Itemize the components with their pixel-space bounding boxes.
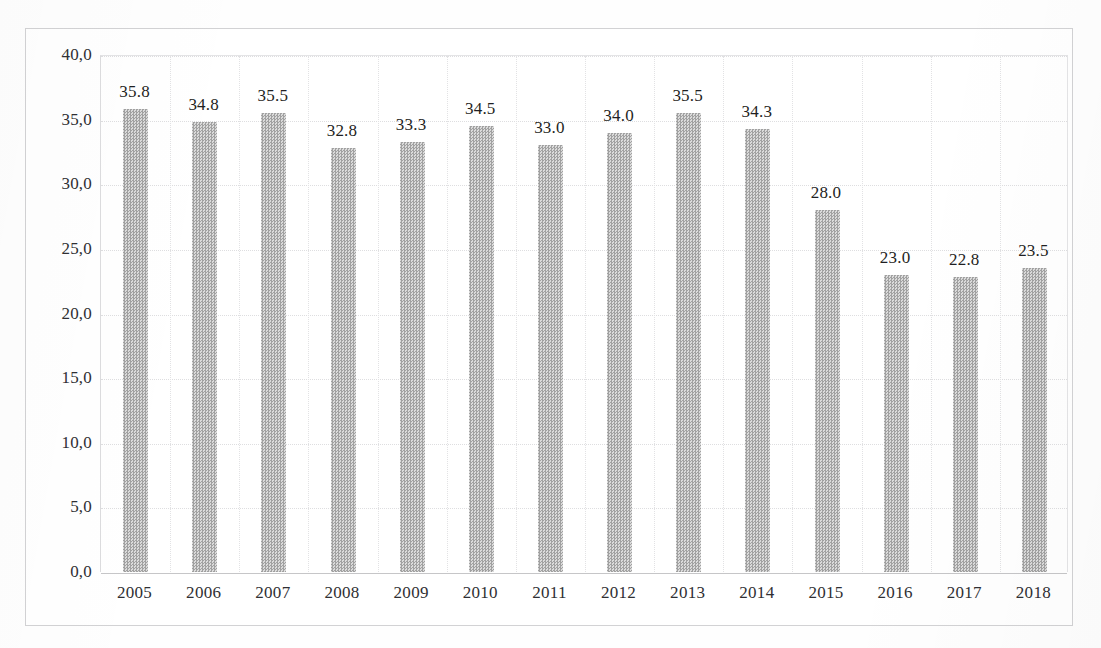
x-axis-tick-label: 2007 <box>241 583 305 603</box>
bar <box>815 210 840 572</box>
y-axis-tick-label: 25,0 <box>30 239 92 259</box>
x-axis-tick-label: 2015 <box>794 583 858 603</box>
gridline-vertical <box>862 56 863 572</box>
bar-value-label: 23.0 <box>863 248 927 268</box>
x-axis-tick-label: 2016 <box>863 583 927 603</box>
y-axis-tick-label: 35,0 <box>30 110 92 130</box>
y-axis-tick-label: 10,0 <box>30 433 92 453</box>
bar <box>400 142 425 572</box>
bar <box>607 133 632 572</box>
bar-value-label: 35.5 <box>656 86 720 106</box>
bar-value-label: 34.3 <box>725 102 789 122</box>
bar <box>261 113 286 572</box>
x-axis-tick-label: 2017 <box>932 583 996 603</box>
bar-value-label: 28.0 <box>794 183 858 203</box>
gridline-horizontal <box>101 315 1067 316</box>
plot-area <box>100 55 1068 572</box>
scan-canvas: 40,035,030,025,020,015,010,05,00,0 35.82… <box>0 0 1101 648</box>
y-axis-tick-label: 20,0 <box>30 304 92 324</box>
x-axis-tick-label: 2010 <box>448 583 512 603</box>
gridline-horizontal <box>101 508 1067 509</box>
gridline-horizontal <box>101 121 1067 122</box>
x-axis-tick-label: 2013 <box>656 583 720 603</box>
gridline-vertical <box>447 56 448 572</box>
bar <box>1022 268 1047 572</box>
gridline-vertical <box>723 56 724 572</box>
bar-value-label: 34.8 <box>172 95 236 115</box>
x-axis-tick-label: 2009 <box>379 583 443 603</box>
bar <box>331 148 356 572</box>
bar-value-label: 35.5 <box>241 86 305 106</box>
gridline-horizontal <box>101 379 1067 380</box>
bar <box>676 113 701 572</box>
y-axis-tick-label: 5,0 <box>30 497 92 517</box>
bar-value-label: 33.0 <box>517 118 581 138</box>
gridline-vertical <box>931 56 932 572</box>
bar <box>538 145 563 572</box>
bar <box>884 275 909 572</box>
x-axis-tick-label: 2008 <box>310 583 374 603</box>
y-axis-tick-label: 0,0 <box>30 562 92 582</box>
bar-value-label: 33.3 <box>379 115 443 135</box>
x-axis-tick-label: 2005 <box>103 583 167 603</box>
gridline-vertical <box>170 56 171 572</box>
gridline-vertical <box>792 56 793 572</box>
bar-value-label: 35.8 <box>103 82 167 102</box>
top-text-remnant <box>40 0 1060 9</box>
bar-value-label: 34.5 <box>448 99 512 119</box>
gridline-vertical <box>239 56 240 572</box>
gridline-vertical <box>1000 56 1001 572</box>
gridline-horizontal <box>101 444 1067 445</box>
bar-value-label: 32.8 <box>310 121 374 141</box>
gridline-horizontal <box>101 56 1067 57</box>
y-axis-tick-labels: 40,035,030,025,020,015,010,05,00,0 <box>26 0 92 648</box>
bar-value-label: 23.5 <box>1001 241 1065 261</box>
bar-value-label: 22.8 <box>932 250 996 270</box>
bar <box>469 126 494 572</box>
bar <box>745 129 770 572</box>
gridline-vertical <box>585 56 586 572</box>
y-axis-tick-label: 15,0 <box>30 368 92 388</box>
bar <box>192 122 217 572</box>
x-axis-tick-label: 2006 <box>172 583 236 603</box>
x-axis-tick-label: 2012 <box>587 583 651 603</box>
gridline-horizontal <box>101 185 1067 186</box>
gridline-horizontal <box>101 573 1067 574</box>
bar <box>953 277 978 572</box>
bar-value-label: 34.0 <box>587 106 651 126</box>
y-axis-tick-label: 40,0 <box>30 45 92 65</box>
x-axis-tick-label: 2018 <box>1001 583 1065 603</box>
bar <box>123 109 148 572</box>
gridline-vertical <box>654 56 655 572</box>
x-axis-tick-label: 2014 <box>725 583 789 603</box>
y-axis-tick-label: 30,0 <box>30 174 92 194</box>
x-axis-tick-label: 2011 <box>517 583 581 603</box>
